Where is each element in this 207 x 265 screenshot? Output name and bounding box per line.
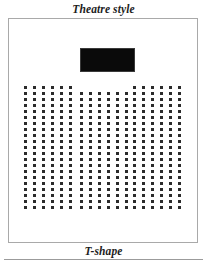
seat	[151, 128, 154, 131]
seat	[98, 194, 101, 197]
seat	[98, 182, 101, 185]
seat	[125, 134, 128, 137]
seat	[116, 158, 119, 161]
seat	[133, 98, 136, 101]
seat	[80, 158, 83, 161]
seat	[42, 194, 45, 197]
seat	[80, 188, 83, 191]
seat	[169, 164, 172, 167]
seat	[24, 134, 27, 137]
seat	[98, 206, 101, 209]
seat	[51, 170, 54, 173]
seat	[69, 146, 72, 149]
seat	[51, 194, 54, 197]
seat	[116, 176, 119, 179]
seat	[151, 206, 154, 209]
seat	[42, 182, 45, 185]
seat	[51, 98, 54, 101]
seat	[133, 152, 136, 155]
seat	[133, 200, 136, 203]
seat	[51, 146, 54, 149]
seat	[60, 110, 63, 113]
seat	[178, 170, 181, 173]
seat	[42, 92, 45, 95]
seat	[142, 86, 145, 89]
seat	[24, 86, 27, 89]
seat	[142, 128, 145, 131]
seat	[133, 158, 136, 161]
seat	[51, 128, 54, 131]
seat	[169, 188, 172, 191]
seat	[142, 92, 145, 95]
seat	[80, 128, 83, 131]
seat	[169, 128, 172, 131]
seat	[89, 164, 92, 167]
seat	[89, 158, 92, 161]
seat	[24, 98, 27, 101]
seat	[80, 164, 83, 167]
seat	[24, 170, 27, 173]
seat	[107, 98, 110, 101]
seat	[142, 146, 145, 149]
seat	[178, 122, 181, 125]
seat	[133, 206, 136, 209]
seat	[151, 104, 154, 107]
seat	[107, 110, 110, 113]
seat	[51, 92, 54, 95]
seat	[178, 164, 181, 167]
seat	[69, 116, 72, 119]
seat	[142, 206, 145, 209]
seat	[33, 200, 36, 203]
seat	[169, 86, 172, 89]
seat	[142, 110, 145, 113]
seat	[33, 104, 36, 107]
seat	[142, 158, 145, 161]
seat	[89, 110, 92, 113]
seat	[42, 116, 45, 119]
seat	[98, 92, 101, 95]
seat	[33, 128, 36, 131]
seat	[107, 104, 110, 107]
seat	[80, 98, 83, 101]
seat	[42, 176, 45, 179]
seat	[160, 164, 163, 167]
seat	[169, 176, 172, 179]
seat	[69, 128, 72, 131]
seat	[116, 188, 119, 191]
seat	[89, 182, 92, 185]
seat	[151, 170, 154, 173]
seat	[160, 206, 163, 209]
seat	[116, 206, 119, 209]
seat	[125, 176, 128, 179]
seat	[160, 104, 163, 107]
seat	[125, 158, 128, 161]
seat	[42, 188, 45, 191]
seat	[80, 152, 83, 155]
seat	[178, 140, 181, 143]
seat	[116, 194, 119, 197]
seat	[178, 92, 181, 95]
seat	[169, 104, 172, 107]
seat	[51, 122, 54, 125]
seat	[160, 188, 163, 191]
seat	[98, 122, 101, 125]
seat	[51, 110, 54, 113]
seat	[107, 116, 110, 119]
seat	[60, 164, 63, 167]
seat	[60, 92, 63, 95]
seat	[125, 164, 128, 167]
seat	[116, 140, 119, 143]
seat	[142, 182, 145, 185]
seat	[116, 92, 119, 95]
seat	[160, 122, 163, 125]
seat	[33, 116, 36, 119]
seat	[69, 176, 72, 179]
seat	[33, 206, 36, 209]
seat	[142, 116, 145, 119]
seat	[116, 128, 119, 131]
seat	[60, 182, 63, 185]
seat	[42, 164, 45, 167]
seat	[169, 110, 172, 113]
seat	[169, 158, 172, 161]
seat	[169, 92, 172, 95]
